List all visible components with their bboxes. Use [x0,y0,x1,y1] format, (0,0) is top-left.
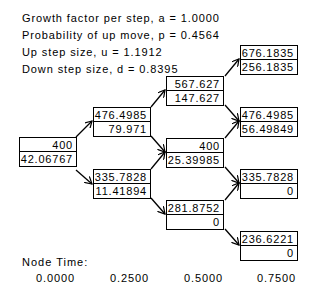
node-value: 0 [167,215,223,229]
node-price: 676.1835 [241,46,297,60]
node-price: 400 [167,139,223,153]
node-time-0: 0.0000 [36,272,75,284]
node-price: 476.4985 [241,108,297,122]
node-price: 335.7828 [241,170,297,184]
node-value: 79.971 [94,122,150,136]
node-price: 476.4985 [94,108,150,122]
node-price: 335.7828 [94,170,150,184]
node-time-label: Node Time: [22,256,88,268]
tree-node-2-1: 400 25.39985 [166,138,224,168]
node-price: 236.6221 [241,232,297,246]
tree-node-1-1: 335.7828 11.41894 [93,169,151,199]
node-value: 25.39985 [167,153,223,167]
node-value: 11.41894 [94,184,150,198]
tree-node-1-0: 476.4985 79.971 [93,107,151,137]
tree-node-3-3: 236.6221 0 [240,231,298,261]
node-value: 42.06767 [20,152,76,166]
node-time-3: 0.7500 [257,272,296,284]
tree-node-2-2: 281.8752 0 [166,200,224,230]
node-price: 567.627 [167,77,223,91]
tree-node-0-0: 400 42.06767 [19,137,77,167]
node-time-2: 0.5000 [184,272,223,284]
node-value: 256.1835 [241,60,297,74]
tree-node-3-0: 676.1835 256.1835 [240,45,298,75]
tree-node-3-2: 335.7828 0 [240,169,298,199]
tree-node-3-1: 476.4985 56.49849 [240,107,298,137]
node-price: 281.8752 [167,201,223,215]
node-price: 400 [20,138,76,152]
node-value: 56.49849 [241,122,297,136]
tree-node-2-0: 567.627 147.627 [166,76,224,106]
node-value: 0 [241,246,297,260]
node-value: 147.627 [167,91,223,105]
node-value: 0 [241,184,297,198]
node-time-1: 0.2500 [110,272,149,284]
